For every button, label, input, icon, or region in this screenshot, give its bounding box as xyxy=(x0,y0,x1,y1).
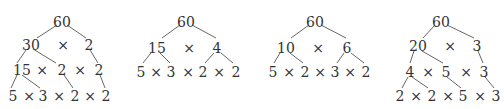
factor-value: 2 xyxy=(362,64,371,80)
times-icon: × xyxy=(182,64,194,80)
factor-value: 2 xyxy=(71,88,80,104)
times-icon: × xyxy=(213,64,225,80)
factor-value: 10 xyxy=(277,40,295,56)
times-icon: × xyxy=(460,64,472,80)
factor-value: 20 xyxy=(409,38,427,54)
times-icon: × xyxy=(183,40,195,56)
factor-value: 2 xyxy=(428,88,437,104)
factor-value: 2 xyxy=(85,37,94,53)
tree-root-value: 60 xyxy=(53,14,71,30)
factor-value: 15 xyxy=(148,40,166,56)
factor-value: 5 xyxy=(442,64,451,80)
factor-value: 3 xyxy=(473,38,482,54)
times-icon: × xyxy=(53,88,65,104)
tree-branch-line xyxy=(221,53,233,63)
times-icon: × xyxy=(57,37,69,53)
tree-root-value: 60 xyxy=(432,14,450,30)
factor-value: 4 xyxy=(406,64,415,80)
factor-value: 5 xyxy=(459,88,468,104)
tree-branch-line xyxy=(321,25,346,38)
times-icon: × xyxy=(74,62,86,78)
times-icon: × xyxy=(422,64,434,80)
factor-value: 2 xyxy=(102,88,111,104)
times-icon: × xyxy=(23,88,35,104)
times-icon: × xyxy=(283,64,295,80)
factor-value: 5 xyxy=(137,64,146,80)
factor-value: 5 xyxy=(269,64,278,80)
factor-value: 2 xyxy=(232,64,241,80)
factor-value: 5 xyxy=(9,88,18,104)
tree-branch-line xyxy=(192,25,216,38)
factor-tree-2: 6015×45×3×2×2 xyxy=(137,14,241,80)
factor-value: 2 xyxy=(58,62,67,78)
factor-value: 3 xyxy=(480,64,489,80)
factor-value: 2 xyxy=(301,64,310,80)
tree-branch-line xyxy=(447,25,474,38)
times-icon: × xyxy=(312,40,324,56)
factor-value: 15 xyxy=(13,62,31,78)
times-icon: × xyxy=(474,88,486,104)
times-icon: × xyxy=(150,64,162,80)
factor-value: 3 xyxy=(492,88,501,104)
times-icon: × xyxy=(36,62,48,78)
factor-value: 4 xyxy=(213,40,222,56)
factor-tree-1: 6030×215×2×25×3×2×2 xyxy=(9,14,111,104)
factor-tree-4: 6020×34×5×32×2×5×3 xyxy=(396,14,501,104)
factor-value: 2 xyxy=(199,64,208,80)
factor-value: 3 xyxy=(331,64,340,80)
times-icon: × xyxy=(444,38,456,54)
factor-value: 2 xyxy=(396,88,405,104)
factor-value: 3 xyxy=(39,88,48,104)
tree-root-value: 60 xyxy=(177,14,195,30)
factor-value: 2 xyxy=(95,62,104,78)
tree-branch-line xyxy=(351,53,364,63)
times-icon: × xyxy=(84,88,96,104)
times-icon: × xyxy=(344,64,356,80)
tree-root-value: 60 xyxy=(306,14,324,30)
factor-value: 3 xyxy=(167,64,176,80)
times-icon: × xyxy=(410,88,422,104)
factor-value: 6 xyxy=(343,40,352,56)
times-icon: × xyxy=(314,64,326,80)
times-icon: × xyxy=(442,88,454,104)
factor-value: 30 xyxy=(22,37,40,53)
factor-tree-diagram: 6030×215×2×25×3×2×2 6015×45×3×2×2 6010×6… xyxy=(0,0,504,109)
factor-tree-3: 6010×65×2×3×2 xyxy=(269,14,371,80)
